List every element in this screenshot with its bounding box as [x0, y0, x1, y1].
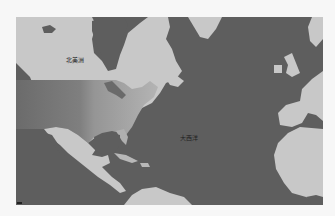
- ocean-label-atlantic: 大西洋: [180, 135, 199, 141]
- continent-label-north-america: 北美洲: [66, 57, 85, 63]
- map-logo: [17, 202, 22, 204]
- map-viewport[interactable]: 北美洲 大西洋: [16, 17, 323, 205]
- map-canvas: [16, 17, 323, 205]
- land-ireland: [274, 65, 282, 73]
